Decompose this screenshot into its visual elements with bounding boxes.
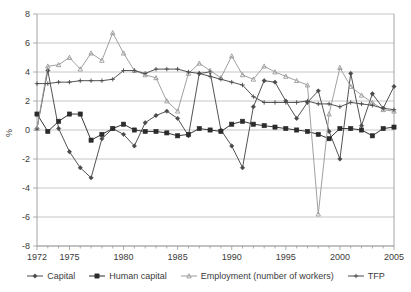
x-tick-label: 1990 xyxy=(222,252,242,260)
legend-marker-icon xyxy=(180,271,198,281)
y-tick-label: -4 xyxy=(22,183,30,193)
data-point-marker xyxy=(338,126,342,130)
data-point-marker xyxy=(121,122,125,126)
x-tick-label: 2000 xyxy=(330,252,350,260)
axis-label-layer: 86420-2-4-6-8197219751980198519901995200… xyxy=(4,9,404,260)
plot-area: 86420-2-4-6-8197219751980198519901995200… xyxy=(0,0,411,260)
legend-marker-icon xyxy=(26,271,44,281)
data-point-marker xyxy=(230,80,234,84)
legend-marker-icon xyxy=(347,271,365,281)
y-tick-label: -8 xyxy=(22,241,30,251)
x-tick-label: 1975 xyxy=(59,252,79,260)
data-point-marker xyxy=(197,126,201,130)
series-line xyxy=(37,33,394,214)
series-human-capital xyxy=(35,112,396,142)
data-point-marker xyxy=(381,126,385,130)
legend-label: TFP xyxy=(368,271,385,281)
data-point-marker xyxy=(143,129,147,133)
y-tick-label: 6 xyxy=(25,38,30,48)
data-point-marker xyxy=(56,80,60,84)
data-point-marker xyxy=(57,119,61,123)
legend-label: Human capital xyxy=(109,271,167,281)
data-point-marker xyxy=(316,132,320,136)
data-point-marker xyxy=(240,166,244,170)
data-point-marker xyxy=(316,102,320,106)
data-point-marker xyxy=(46,129,50,133)
data-point-marker xyxy=(186,132,190,136)
data-point-marker xyxy=(154,67,158,71)
data-point-marker xyxy=(273,80,277,84)
legend-item-employment-number-of-workers[interactable]: Employment (number of workers) xyxy=(180,271,334,281)
data-point-marker xyxy=(111,126,115,130)
data-point-marker xyxy=(78,112,82,116)
data-point-marker xyxy=(305,129,309,133)
data-point-marker xyxy=(392,125,396,129)
chart-container: 86420-2-4-6-8197219751980198519901995200… xyxy=(0,0,411,292)
x-tick-label: 1985 xyxy=(168,252,188,260)
x-tick-label: 1972 xyxy=(27,252,47,260)
data-point-marker xyxy=(33,274,37,278)
legend-marker-icon xyxy=(88,271,106,281)
data-point-marker xyxy=(176,134,180,138)
data-point-marker xyxy=(251,122,255,126)
x-tick-label: 1995 xyxy=(276,252,296,260)
legend-label: Capital xyxy=(47,271,75,281)
series-line xyxy=(37,71,394,178)
x-tick-label: 1980 xyxy=(114,252,134,260)
data-point-marker xyxy=(284,126,288,130)
y-tick-label: -6 xyxy=(22,212,30,222)
legend-item-capital[interactable]: Capital xyxy=(26,271,75,281)
data-point-marker xyxy=(95,274,99,278)
data-point-marker xyxy=(295,128,299,132)
data-point-marker xyxy=(165,131,169,135)
line-chart-svg: 86420-2-4-6-8197219751980198519901995200… xyxy=(0,0,411,260)
data-point-marker xyxy=(67,80,71,84)
data-point-marker xyxy=(89,138,93,142)
series-capital xyxy=(35,68,396,180)
data-point-marker xyxy=(349,126,353,130)
data-point-marker xyxy=(327,137,331,141)
data-point-marker xyxy=(359,128,363,132)
data-point-marker xyxy=(46,81,50,85)
data-point-marker xyxy=(165,67,169,71)
data-point-marker xyxy=(100,79,104,83)
data-point-marker xyxy=(35,81,39,85)
data-point-marker xyxy=(359,102,363,106)
data-point-marker xyxy=(100,132,104,136)
series-line xyxy=(37,69,394,110)
data-point-marker xyxy=(359,123,363,127)
x-axis-ticks xyxy=(37,246,394,250)
y-tick-label: 2 xyxy=(25,96,30,106)
data-point-marker xyxy=(338,105,342,109)
y-tick-label: 4 xyxy=(25,67,30,77)
data-point-marker xyxy=(262,124,266,128)
chart-legend: CapitalHuman capitalEmployment (number o… xyxy=(0,264,411,288)
y-tick-label: 0 xyxy=(25,125,30,135)
legend-item-human-capital[interactable]: Human capital xyxy=(88,271,167,281)
data-point-marker xyxy=(392,84,396,88)
data-point-marker xyxy=(154,129,158,133)
data-point-marker xyxy=(132,128,136,132)
data-point-marker xyxy=(338,157,342,161)
data-point-marker xyxy=(35,112,39,116)
data-point-marker xyxy=(175,67,179,71)
data-point-marker xyxy=(370,134,374,138)
data-point-marker xyxy=(67,112,71,116)
y-tick-label: 8 xyxy=(25,9,30,19)
data-point-marker xyxy=(219,129,223,133)
data-point-marker xyxy=(240,119,244,123)
data-point-marker xyxy=(251,105,255,109)
data-point-marker xyxy=(354,274,358,278)
data-point-marker xyxy=(78,79,82,83)
data-point-marker xyxy=(273,125,277,129)
data-point-marker xyxy=(230,122,234,126)
data-point-marker xyxy=(208,128,212,132)
data-point-marker xyxy=(89,79,93,83)
legend-label: Employment (number of workers) xyxy=(201,271,334,281)
legend-item-tfp[interactable]: TFP xyxy=(347,271,385,281)
y-tick-label: -2 xyxy=(22,154,30,164)
data-point-marker xyxy=(262,79,266,83)
y-axis-title: % xyxy=(4,129,14,137)
x-tick-label: 2005 xyxy=(384,252,404,260)
